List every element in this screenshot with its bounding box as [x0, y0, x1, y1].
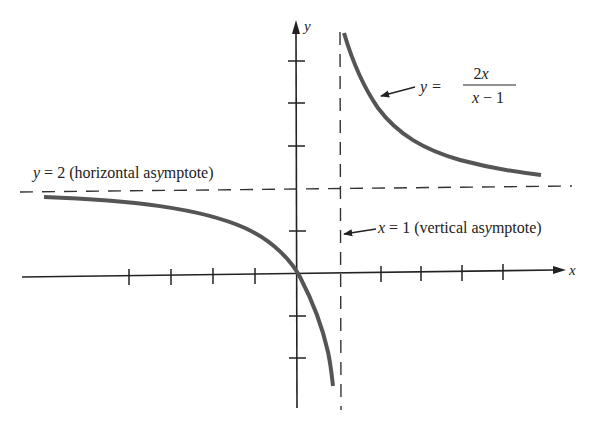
function-pointer-arrow-icon [381, 87, 415, 96]
function-label: y = 2x x − 1 [381, 65, 516, 106]
vertical-asymptote-label: x = 1 (vertical asymptote) [377, 219, 542, 237]
vertical-asymptote-annotation: x = 1 (vertical asymptote) [344, 219, 542, 237]
vertical-asymptote-line [340, 32, 341, 410]
function-lhs: y = [418, 78, 442, 96]
horizontal-asymptote-label: y = 2 (horizontal asymptote) [31, 164, 214, 182]
vertical-asymptote-pointer-arrow-icon [344, 229, 376, 234]
function-numerator: 2x [473, 65, 488, 82]
hyperbola-plot: x y y = 2x x − 1 y = 2 (horizontal asymp… [0, 0, 610, 426]
y-axis-arrow-icon [292, 20, 300, 34]
x-axis-label: x [568, 262, 576, 278]
svg-text:y =: y = [418, 78, 442, 96]
y-axis: y [288, 18, 311, 408]
y-axis-label: y [302, 18, 311, 34]
curve-right-branch [344, 33, 541, 175]
function-denominator: x − 1 [471, 89, 504, 106]
x-axis-arrow-icon [553, 266, 566, 274]
